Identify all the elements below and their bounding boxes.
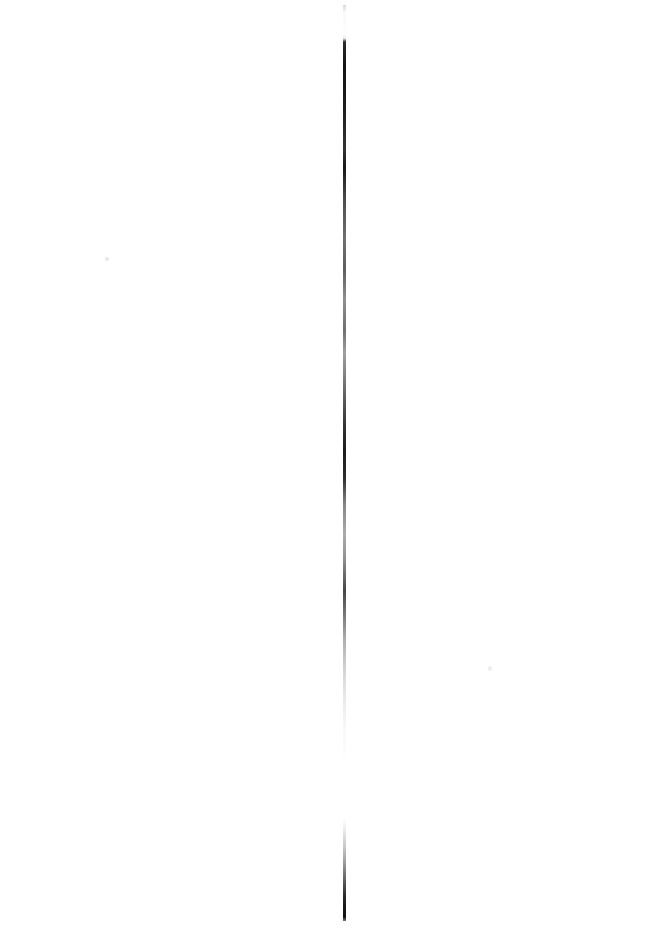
speck-left bbox=[105, 257, 109, 261]
lower-hairline-segment bbox=[343, 820, 346, 921]
lower-hairline-ink bbox=[343, 820, 346, 921]
page-canvas bbox=[0, 0, 664, 928]
upper-hairline-segment bbox=[343, 5, 346, 761]
upper-hairline-ink bbox=[343, 5, 346, 761]
speck-right bbox=[488, 666, 492, 671]
